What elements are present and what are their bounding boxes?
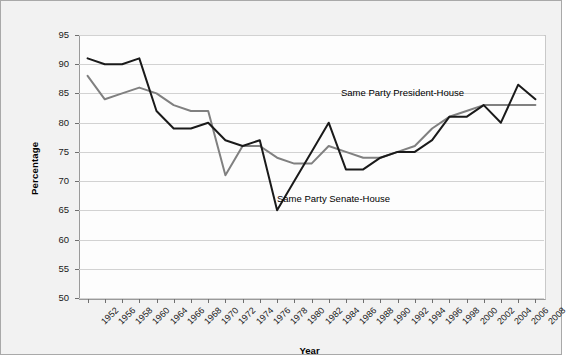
line-president-house <box>88 76 536 175</box>
line-senate-house <box>88 58 536 210</box>
annotation-senate-house: Same Party Senate-House <box>277 194 390 204</box>
series-lines <box>9 9 553 346</box>
chart-panel: 50556065707580859095 1952195619581960196… <box>9 9 553 346</box>
annotation-president-house: Same Party President-House <box>341 88 464 98</box>
x-axis-title: Year <box>300 345 320 355</box>
